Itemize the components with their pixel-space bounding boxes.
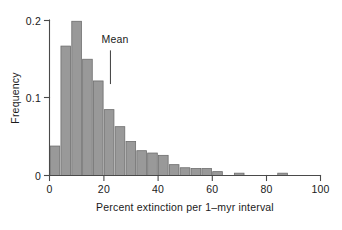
x-axis-title: Percent extinction per 1–myr interval: [96, 201, 274, 213]
x-tick-label-100: 100: [311, 183, 329, 195]
histogram-bars: [50, 21, 287, 175]
y-axis-title: Frequency: [9, 72, 21, 124]
y-tick-label-0: 0: [35, 170, 41, 182]
histogram-bar: [104, 110, 114, 176]
histogram-bar: [213, 172, 223, 176]
x-tick-label-0: 0: [46, 183, 52, 195]
extinction-histogram-chart: 0.2 0.1 0 0 20 40 60 80 100 Percent exti…: [0, 0, 342, 230]
x-tick-label-40: 40: [152, 183, 164, 195]
histogram-bar: [169, 165, 179, 176]
histogram-bar: [180, 168, 190, 176]
histogram-bar: [50, 146, 60, 175]
x-axis-ticks: [50, 176, 321, 181]
histogram-bar: [159, 155, 169, 175]
y-tick-label-0.1: 0.1: [26, 92, 41, 104]
histogram-bar: [148, 153, 158, 175]
histogram-bar: [191, 169, 201, 176]
histogram-bar: [137, 151, 147, 176]
x-tick-label-20: 20: [98, 183, 110, 195]
x-tick-label-60: 60: [206, 183, 218, 195]
histogram-bar: [61, 46, 71, 175]
mean-annotation: Mean: [101, 33, 128, 84]
histogram-bar: [72, 21, 82, 175]
histogram-bar: [126, 141, 136, 175]
mean-annotation-label: Mean: [101, 33, 128, 45]
histogram-bar: [115, 127, 125, 176]
histogram-bar: [93, 81, 103, 176]
histogram-bar: [83, 59, 93, 175]
histogram-bar: [202, 169, 212, 176]
y-axis-ticks: [45, 21, 50, 176]
x-tick-label-80: 80: [260, 183, 272, 195]
y-tick-label-0.2: 0.2: [26, 15, 41, 27]
histogram-figure: 0.2 0.1 0 0 20 40 60 80 100 Percent exti…: [0, 0, 342, 230]
